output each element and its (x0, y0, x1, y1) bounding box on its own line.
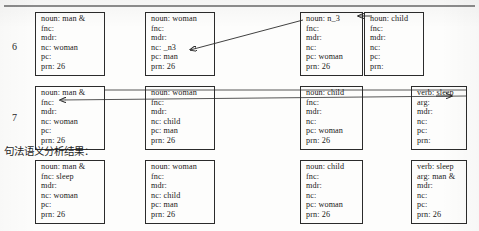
proplet-r7-c4-line-3: mdr: (417, 107, 463, 117)
proplet-r8-c2-line-6: prn: 26 (151, 210, 211, 220)
proplet-r8-c1-line-3: mdr: (41, 181, 101, 191)
proplet-r7-c4-line-6: prn: (417, 136, 463, 146)
proplet-r6-c1-line-3: mdr: (41, 33, 101, 43)
proplet-r6-c4-line-6: prn: (370, 62, 420, 72)
proplet-r8-c4-line-5: pc: (417, 200, 463, 210)
proplet-r8-c3: noun: child fnc: mdr: nc: pc: woman prn:… (300, 160, 363, 224)
row-number-7: 7 (12, 113, 17, 123)
proplet-r6-c2: noun: woman fnc: mdr: nc: _n3 pc: man pr… (145, 12, 215, 76)
proplet-r6-c3-line-6: prn: 26 (306, 62, 359, 72)
proplet-r6-c1-line-2: fnc: (41, 24, 101, 34)
proplet-r8-c2-line-2: fnc: (151, 172, 211, 182)
proplet-r8-c4-line-3: mdr: (417, 181, 463, 191)
proplet-r7-c1: noun: man & fnc: mdr: nc: woman pc: prn:… (35, 86, 105, 150)
proplet-r6-c4: noun: child fnc: mdr: nc: pc: prn: (364, 12, 424, 76)
proplet-r6-c2-line-5: pc: man (151, 52, 211, 62)
arrow-r7-to-man-fnc (60, 96, 466, 100)
proplet-r8-c4: verb: sleep arg: man & mdr: nc: pc: prn:… (411, 160, 467, 224)
proplet-r8-c3-line-2: fnc: (306, 172, 359, 182)
proplet-r7-c2-line-6: prn: 26 (151, 136, 211, 146)
proplet-r6-c3: noun: n_3 fnc: mdr: nc: pc: woman prn: 2… (300, 12, 363, 76)
proplet-r8-c2-line-5: pc: man (151, 200, 211, 210)
proplet-r7-c1-line-5: pc: (41, 126, 101, 136)
proplet-r6-c3-line-5: pc: woman (306, 52, 359, 62)
proplet-r7-c2: noun: woman fnc: mdr: nc: child pc: man … (145, 86, 215, 150)
proplet-r7-c3-line-5: pc: woman (306, 126, 359, 136)
proplet-r7-c3-line-4: nc: (306, 117, 359, 127)
proplet-r6-c1-line-5: pc: (41, 52, 101, 62)
proplet-r7-c1-line-2: fnc: (41, 98, 101, 108)
proplet-r8-c3-line-6: prn: 26 (306, 210, 359, 220)
proplet-r8-c1-line-2: fnc: sleep (41, 172, 101, 182)
proplet-r8-c1-line-1: noun: man & (41, 162, 101, 172)
proplet-r7-c4-line-2: arg: (417, 98, 463, 108)
top-divider-rule (4, 5, 475, 7)
proplet-r7-c4-line-1: verb: sleep (417, 88, 463, 98)
proplet-r8-c1: noun: man & fnc: sleep mdr: nc: woman pc… (35, 160, 105, 224)
proplet-r6-c3-line-2: fnc: (306, 24, 359, 34)
proplet-r6-c4-line-2: fnc: (370, 24, 420, 34)
proplet-r6-c1-line-6: prn: 26 (41, 62, 101, 72)
proplet-r7-c2-line-2: fnc: (151, 98, 211, 108)
proplet-r6-c3-line-4: nc: (306, 43, 359, 53)
proplet-r8-c4-line-6: prn: 26 (417, 210, 463, 220)
figure-canvas: 6 noun: man & fnc: mdr: nc: woman pc: pr… (0, 0, 479, 231)
proplet-r7-c3-line-6: prn: 26 (306, 136, 359, 146)
proplet-r7-c4: verb: sleep arg: mdr: nc: pc: prn: (411, 86, 467, 150)
proplet-r7-c1-line-1: noun: man & (41, 88, 101, 98)
proplet-r8-c3-line-1: noun: child (306, 162, 359, 172)
proplet-r6-c2-line-3: mdr: (151, 33, 211, 43)
proplet-r8-c3-line-3: mdr: (306, 181, 359, 191)
proplet-r6-c4-line-4: nc: (370, 43, 420, 53)
proplet-r7-c3: noun: child fnc: mdr: nc: pc: woman prn:… (300, 86, 363, 150)
proplet-r6-c2-line-2: fnc: (151, 24, 211, 34)
proplet-r6-c1-line-1: noun: man & (41, 14, 101, 24)
proplet-r6-c3-line-3: mdr: (306, 33, 359, 43)
proplet-r7-c3-line-3: mdr: (306, 107, 359, 117)
proplet-r8-c4-line-2: arg: man & (417, 172, 463, 182)
proplet-r6-c2-line-4: nc: _n3 (151, 43, 211, 53)
proplet-r6-c1: noun: man & fnc: mdr: nc: woman pc: prn:… (35, 12, 105, 76)
proplet-r8-c3-line-5: pc: woman (306, 200, 359, 210)
proplet-r7-c1-line-3: mdr: (41, 107, 101, 117)
proplet-r8-c2-line-3: mdr: (151, 181, 211, 191)
proplet-r8-c4-line-1: verb: sleep (417, 162, 463, 172)
proplet-r7-c2-line-1: noun: woman (151, 88, 211, 98)
proplet-r8-c2-line-1: noun: woman (151, 162, 211, 172)
proplet-r8-c1-line-6: prn: 26 (41, 210, 101, 220)
proplet-r6-c2-line-1: noun: woman (151, 14, 211, 24)
proplet-r7-c3-line-2: fnc: (306, 98, 359, 108)
proplet-r8-c2-line-4: nc: child (151, 191, 211, 201)
proplet-r8-c1-line-5: pc: (41, 200, 101, 210)
proplet-r8-c4-line-4: nc: (417, 191, 463, 201)
proplet-r8-c1-line-4: nc: woman (41, 191, 101, 201)
proplet-r6-c4-line-1: noun: child (370, 14, 420, 24)
proplet-r7-c2-line-4: nc: child (151, 117, 211, 127)
figure-caption: 句法语义分析结果： (4, 145, 94, 157)
proplet-r6-c1-line-4: nc: woman (41, 43, 101, 53)
proplet-r7-c1-line-4: nc: woman (41, 117, 101, 127)
proplet-r7-c3-line-1: noun: child (306, 88, 359, 98)
row-number-6: 6 (12, 42, 17, 52)
proplet-r7-c4-line-4: nc: (417, 117, 463, 127)
proplet-r6-c2-line-6: prn: 26 (151, 62, 211, 72)
proplet-r6-c4-line-3: mdr: (370, 33, 420, 43)
proplet-r6-c3-line-1: noun: n_3 (306, 14, 359, 24)
proplet-r6-c4-line-5: pc: (370, 52, 420, 62)
proplet-r7-c4-line-5: pc: (417, 126, 463, 136)
proplet-r7-c2-line-3: mdr: (151, 107, 211, 117)
proplet-r7-c2-line-5: pc: man (151, 126, 211, 136)
proplet-r8-c3-line-4: nc: (306, 191, 359, 201)
proplet-r8-c2: noun: woman fnc: mdr: nc: child pc: man … (145, 160, 215, 224)
